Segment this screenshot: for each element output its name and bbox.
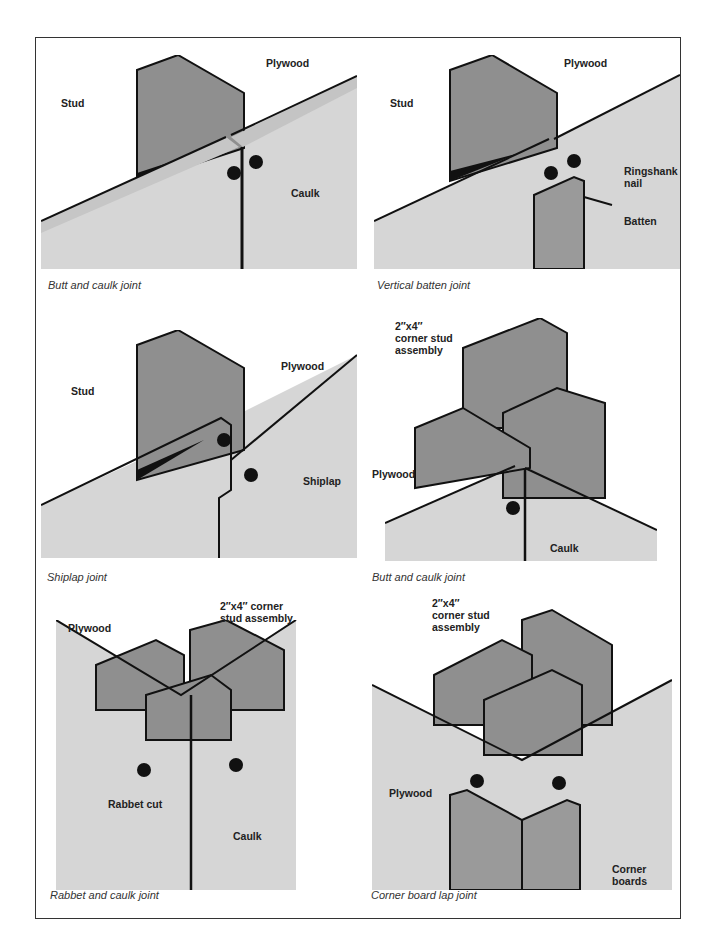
butt-caulk-illustration: [41, 55, 357, 269]
label-stud: Stud: [71, 385, 94, 397]
label-corner: Corner: [612, 863, 646, 875]
label-caulk: Caulk: [550, 542, 579, 554]
panel-shiplap-joint: Stud Plywood Shiplap: [41, 330, 357, 558]
corner-board-lap-illustration: [372, 605, 672, 890]
label-plywood: Plywood: [389, 787, 432, 799]
label-stud-size: 2″x4″ corner: [220, 600, 283, 612]
label-assembly: assembly: [395, 344, 443, 356]
label-caulk: Caulk: [291, 187, 320, 199]
label-plywood: Plywood: [564, 57, 607, 69]
label-rabbet-cut: Rabbet cut: [108, 798, 162, 810]
caption-panel-2: Vertical batten joint: [377, 279, 470, 291]
label-shiplap: Shiplap: [303, 475, 341, 487]
label-boards: boards: [612, 875, 647, 887]
panel-rabbet-caulk-joint: 2″x4″ corner stud assembly Plywood Rabbe…: [56, 620, 328, 890]
label-stud-size: 2″x4″: [432, 597, 460, 609]
label-stud-size: 2″x4″: [395, 320, 423, 332]
label-plywood: Plywood: [68, 622, 111, 634]
caption-panel-6: Corner board lap joint: [371, 889, 477, 901]
caption-panel-3: Shiplap joint: [47, 571, 107, 583]
panel-butt-caulk-joint: Stud Plywood Caulk: [41, 55, 357, 269]
label-stud: Stud: [61, 97, 84, 109]
label-corner-stud: corner stud: [395, 332, 453, 344]
label-caulk: Caulk: [233, 830, 262, 842]
panel-butt-caulk-corner: 2″x4″ corner stud assembly Plywood Caulk: [385, 318, 657, 561]
label-assembly: assembly: [432, 621, 480, 633]
rabbet-caulk-illustration: [56, 620, 328, 890]
label-ringshank: Ringshank: [624, 165, 678, 177]
label-plywood: Plywood: [281, 360, 324, 372]
panel-corner-board-lap-joint: 2″x4″ corner stud assembly Plywood Corne…: [372, 605, 672, 890]
label-stud: Stud: [390, 97, 413, 109]
label-stud-assembly: stud assembly: [220, 612, 293, 624]
label-plywood: Plywood: [372, 468, 415, 480]
panel-vertical-batten-joint: Stud Plywood Ringshank nail Batten: [374, 55, 680, 269]
vertical-batten-illustration: [374, 55, 680, 269]
label-batten: Batten: [624, 215, 657, 227]
label-nail: nail: [624, 177, 642, 189]
caption-panel-1: Butt and caulk joint: [48, 279, 141, 291]
caption-panel-4: Butt and caulk joint: [372, 571, 465, 583]
label-corner-stud: corner stud: [432, 609, 490, 621]
caption-panel-5: Rabbet and caulk joint: [50, 889, 159, 901]
label-plywood: Plywood: [266, 57, 309, 69]
